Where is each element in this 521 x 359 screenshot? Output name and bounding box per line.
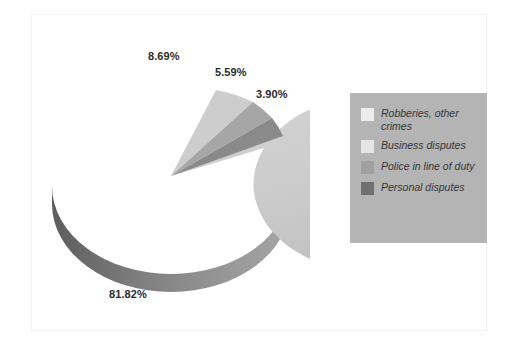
legend-swatch-icon-business-disputes	[361, 140, 374, 153]
legend-item-robberies-other-crimes: Robberies, other crimes	[361, 107, 481, 132]
legend-item-business-disputes: Business disputes	[361, 139, 481, 153]
legend-label-robberies-other-crimes: Robberies, other crimes	[381, 107, 481, 132]
legend-swatch-icon-personal-disputes	[361, 182, 374, 195]
data-label-slice-2: 3.90%	[256, 88, 288, 100]
legend-label-personal-disputes: Personal disputes	[381, 181, 464, 194]
legend-label-police-in-line-of-duty: Police in line of duty	[381, 160, 474, 173]
legend-label-business-disputes: Business disputes	[381, 139, 466, 152]
pie-area	[40, 78, 310, 293]
legend-swatch-icon-police-in-line-of-duty	[361, 161, 374, 174]
data-label-slice-0: 8.69%	[148, 50, 180, 62]
chart-legend: Robberies, other crimes Business dispute…	[350, 93, 487, 243]
pie-depth-wall	[52, 186, 290, 292]
legend-item-police-in-line-of-duty: Police in line of duty	[361, 160, 481, 174]
pie-chart-figure: 8.69% 5.59% 3.90% 81.82% Robberies, othe…	[0, 0, 521, 359]
data-label-slice-3: 81.82%	[109, 288, 147, 300]
legend-swatch-icon-robberies-other-crimes	[361, 108, 374, 121]
legend-item-personal-disputes: Personal disputes	[361, 181, 481, 195]
data-label-slice-1: 5.59%	[215, 66, 247, 78]
pie-graphic	[40, 78, 310, 293]
